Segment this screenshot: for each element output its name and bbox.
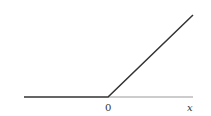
origin-label: 0 <box>105 102 111 113</box>
relu-line <box>24 15 193 97</box>
x-axis-label: x <box>187 102 193 113</box>
relu-plot: 0 x <box>0 0 211 116</box>
